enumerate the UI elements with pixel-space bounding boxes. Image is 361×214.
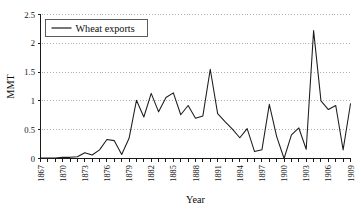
x-tick-label: 1888 [192,165,201,182]
y-tick-label: 1.5 [24,67,35,77]
line-chart: 00.511.522.5 186718701873187618791882188… [0,0,361,214]
legend: Wheat exports [46,20,148,37]
x-tick-label: 1885 [169,165,178,182]
x-axis-title: Year [186,194,205,205]
x-tick-label: 1891 [214,165,223,182]
y-axis-title: MMT [5,74,16,99]
y-tick-label: 2.5 [24,10,35,20]
x-tick-label: 1867 [37,165,46,182]
y-tick-label: 1 [31,96,35,106]
x-tick-label: 1882 [147,165,156,182]
y-tick-label: 0.5 [24,125,35,135]
x-tick-label: 1909 [347,165,356,182]
y-tick-label: 0 [31,154,35,164]
x-tick-label: 1870 [59,165,68,182]
x-tick-label: 1873 [81,165,90,182]
x-tick-label: 1894 [236,164,245,182]
x-tick-label: 1903 [302,165,311,182]
chart-container: 00.511.522.5 186718701873187618791882188… [0,0,361,214]
x-tick-label: 1879 [125,165,134,182]
x-tick-label: 1876 [103,165,112,182]
x-tick-label: 1906 [324,165,333,182]
legend-label-wheat-exports: Wheat exports [76,23,135,34]
series-line-wheat-exports [41,31,351,159]
x-tick-label: 1897 [258,165,267,182]
x-tick-labels-group: 1867187018731876187918821885188818911894… [37,164,356,182]
y-tick-labels-group: 00.511.522.5 [24,10,35,164]
y-tick-label: 2 [31,38,35,48]
x-tick-label: 1900 [280,165,289,182]
